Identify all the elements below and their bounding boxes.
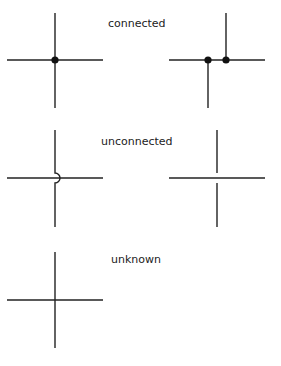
junction-dot-icon bbox=[222, 56, 229, 63]
label-unknown: unknown bbox=[111, 253, 161, 266]
label-connected: connected bbox=[108, 17, 166, 30]
wire-crossing-diagram bbox=[0, 0, 281, 366]
unconnected-hop-crossing bbox=[7, 130, 103, 227]
junction-dot-icon bbox=[204, 56, 211, 63]
junction-dot-icon bbox=[51, 56, 58, 63]
unknown-plain-crossing bbox=[7, 252, 103, 348]
unconnected-gap-crossing bbox=[169, 130, 265, 227]
label-unconnected: unconnected bbox=[101, 135, 173, 148]
connected-two-tees bbox=[169, 13, 265, 108]
